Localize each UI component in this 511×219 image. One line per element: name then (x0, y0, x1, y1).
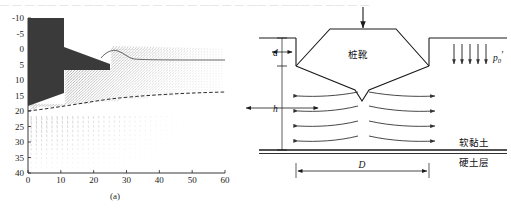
x-tick-label: 30 (122, 175, 132, 185)
panel-a-caption: (a) (110, 191, 120, 201)
spudcan-body-shape (28, 18, 110, 106)
x-tick-label: 60 (221, 175, 231, 185)
x-axis-ticks: 0102030405060 (26, 170, 230, 185)
height-dim-label: h (273, 104, 278, 114)
squeeze-flow-arrows (298, 92, 435, 141)
y-tick-label: -10 (12, 13, 24, 23)
x-tick-label: 40 (155, 175, 165, 185)
surcharge-label: p0′ (492, 50, 504, 64)
y-tick-label: 35 (15, 153, 25, 163)
x-tick-label: 0 (26, 175, 31, 185)
vertical-dimension-line (246, 38, 318, 150)
panel-b-schematic: p0′ 软黏土 硬土层 桩靴 (255, 0, 511, 219)
lower-vertical-vector-field (31, 116, 182, 168)
y-tick-label: 40 (15, 168, 25, 178)
spudcan-outline (296, 29, 429, 101)
x-tick-label: 10 (56, 175, 66, 185)
y-tick-label: 0 (20, 44, 25, 54)
hard-layer-interface (259, 150, 507, 154)
figure-container: — — — —— — — —— — —— — — —— — —— — — —— … (0, 0, 511, 219)
y-tick-label: 5 (20, 60, 25, 70)
y-tick-label: 10 (15, 75, 25, 85)
panel-a-numerical-plot: -10-50510152025303540 0102030405060 (a) (0, 0, 255, 219)
y-tick-label: 15 (15, 91, 25, 101)
hard-layer-label: 硬土层 (459, 157, 489, 168)
spudcan-label: 桩靴 (348, 49, 368, 60)
y-tick-label: -5 (17, 29, 25, 39)
y-tick-label: 25 (15, 122, 25, 132)
x-tick-label: 50 (188, 175, 198, 185)
x-tick-label: 20 (89, 175, 99, 185)
clipped-text-bottom: — —— —— — —— —— (0, 211, 511, 219)
diameter-label: D (358, 160, 366, 170)
y-tick-label: 20 (15, 106, 25, 116)
soft-clay-label: 软黏土 (459, 137, 489, 148)
y-tick-label: 30 (15, 137, 25, 147)
surcharge-arrows (454, 44, 486, 64)
depth-dim-label: d (273, 48, 278, 58)
